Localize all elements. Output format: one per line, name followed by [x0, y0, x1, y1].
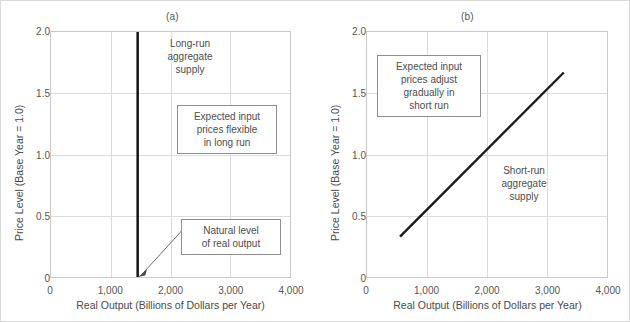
x-tick-4000: 4,000: [278, 285, 303, 296]
y-tick-1-0: 1.0: [14, 149, 50, 160]
x-tick-3000: 3,000: [218, 285, 243, 296]
x-tick-2000: 2,000: [474, 285, 499, 296]
y-tick-2-0: 2.0: [14, 26, 50, 37]
short-run-explanation-box: Expected input prices adjust gradually i…: [377, 55, 481, 117]
x-tick-1000: 1,000: [414, 285, 439, 296]
panel-a-x-ticks: 0 1,000 2,000 3,000 4,000: [50, 280, 291, 296]
natural-level-callout-box: Natural level of real output: [181, 219, 281, 255]
panel-b-title: (b): [310, 11, 625, 22]
long-run-explanation-box: Expected input prices flexible in long r…: [177, 105, 277, 154]
x-tick-3000: 3,000: [535, 285, 560, 296]
panel-b-x-axis-label: Real Output (Billions of Dollars per Yea…: [330, 299, 630, 311]
y-tick-1-0: 1.0: [330, 149, 366, 160]
panel-a-y-ticks: 0 0.5 1.0 1.5 2.0: [6, 31, 50, 278]
x-tick-0: 0: [363, 285, 369, 296]
x-tick-0: 0: [47, 285, 53, 296]
x-tick-2000: 2,000: [158, 285, 183, 296]
y-tick-2-0: 2.0: [330, 26, 366, 37]
panel-b-x-ticks: 0 1,000 2,000 3,000 4,000: [366, 280, 608, 296]
y-tick-0-5: 0.5: [330, 211, 366, 222]
panel-b-y-ticks: 0 0.5 1.0 1.5 2.0: [322, 31, 366, 278]
panel-a-title: (a): [15, 11, 330, 22]
y-tick-0: 0: [14, 273, 50, 284]
lras-curve-label: Long-run aggregate supply: [144, 37, 236, 76]
y-tick-0-5: 0.5: [14, 211, 50, 222]
panel-b: (b) Price Level (Base Year = 1.0) 0 0.5 …: [316, 1, 630, 322]
panel-a-x-axis-label: Real Output (Billions of Dollars per Yea…: [13, 299, 328, 311]
x-tick-4000: 4,000: [595, 285, 620, 296]
panel-a: (a) Price Level (Base Year = 1.0) 0 0.5 …: [1, 1, 316, 322]
y-tick-1-5: 1.5: [330, 87, 366, 98]
y-tick-0: 0: [330, 273, 366, 284]
y-tick-1-5: 1.5: [14, 87, 50, 98]
natural-level-arrow-shaft: [142, 228, 184, 274]
x-tick-1000: 1,000: [98, 285, 123, 296]
sras-curve-label: Short-run aggregate supply: [482, 164, 566, 203]
figure-container: (a) Price Level (Base Year = 1.0) 0 0.5 …: [0, 0, 630, 322]
